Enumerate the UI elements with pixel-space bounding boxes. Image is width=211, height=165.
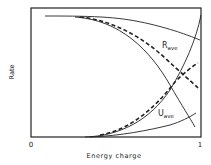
r-upper-curve — [45, 16, 200, 40]
x-tick-1: 1 — [198, 141, 202, 149]
y-axis-label: Rate — [8, 65, 16, 80]
u-upper-curve — [85, 15, 201, 137]
u-ave-curve — [100, 63, 198, 135]
r-ave-label: Rave — [162, 41, 178, 51]
chart: Rave Uave 0 1 Energy charge Rate — [0, 0, 211, 165]
x-axis-label: Energy charge — [87, 152, 142, 160]
u-ave-label: Uave — [158, 109, 174, 119]
plot-frame — [31, 8, 201, 137]
u-lower-curve — [90, 113, 196, 137]
r-lower-curve — [75, 17, 195, 127]
x-tick-0: 0 — [29, 141, 33, 149]
